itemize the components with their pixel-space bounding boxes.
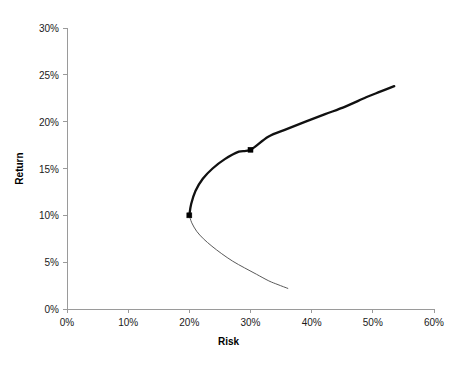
series-efficient-frontier <box>189 86 394 215</box>
marker-minimum-variance-portfolio <box>187 213 192 218</box>
y-axis-tick-label: 25% <box>20 69 59 80</box>
x-axis-tick-label: 50% <box>363 317 383 328</box>
x-axis-tick-label: 0% <box>60 317 74 328</box>
y-axis-tick-label: 5% <box>20 257 59 268</box>
efficient-frontier-plot <box>0 0 457 367</box>
data-point-markers-group <box>187 147 253 218</box>
x-axis-tick-label: 20% <box>179 317 199 328</box>
axis-group <box>67 28 434 309</box>
x-axis-title: Risk <box>0 336 457 347</box>
marker-portfolio-point <box>248 147 253 152</box>
y-axis-tick-label: 20% <box>20 116 59 127</box>
x-axis-tick-label: 30% <box>240 317 260 328</box>
x-axis-tick-label: 40% <box>302 317 322 328</box>
y-axis-title: Return <box>14 124 25 214</box>
x-axis-tick-label: 10% <box>118 317 138 328</box>
y-axis-title-label: Return <box>14 124 25 214</box>
chart-container: 0%5%10%15%20%25%30% 0%10%20%30%40%50%60%… <box>0 0 457 367</box>
y-axis-tick-label: 0% <box>20 304 59 315</box>
series-inefficient-frontier <box>189 215 287 288</box>
y-axis-tick-label: 15% <box>20 163 59 174</box>
y-axis-tick-label: 30% <box>20 23 59 34</box>
y-axis-tick-label: 10% <box>20 210 59 221</box>
x-axis-tick-label: 60% <box>424 317 444 328</box>
data-series-group <box>189 86 394 288</box>
